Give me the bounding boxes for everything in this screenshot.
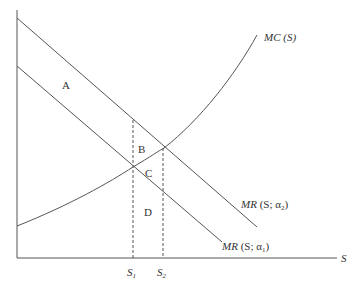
diagram-svg: A B C D MC (S) MR (S; α2) MR (S; α1) S S… [0, 0, 357, 291]
mr-alpha1-label: MR (S; α1) [221, 240, 270, 254]
mr-alpha2-curve [17, 18, 257, 227]
region-c-label: C [145, 167, 152, 179]
mc-curve [17, 35, 257, 226]
mr-alpha2-label: MR (S; α2) [240, 198, 289, 212]
region-a-label: A [62, 79, 70, 91]
s1-tick-label: S1 [127, 266, 136, 280]
mr-alpha1-curve [17, 66, 222, 242]
diagram-canvas: A B C D MC (S) MR (S; α2) MR (S; α1) S S… [0, 0, 357, 291]
mc-label: MC (S) [263, 31, 296, 44]
region-b-label: B [138, 143, 145, 155]
x-axis-label: S [341, 252, 347, 264]
region-d-label: D [144, 206, 152, 218]
s2-tick-label: S2 [157, 266, 167, 280]
